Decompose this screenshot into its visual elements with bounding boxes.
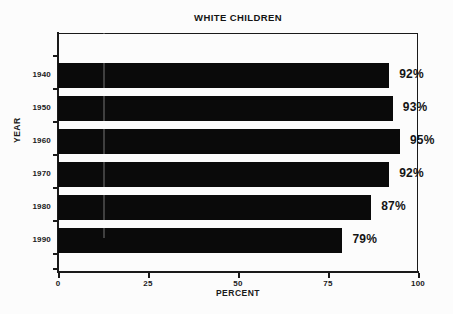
y-axis-tick-label: 1970 [32, 169, 51, 178]
y-axis-tick [53, 121, 58, 123]
bar-value-label: 79% [352, 232, 377, 246]
bar-row: 93% [58, 93, 418, 126]
x-axis-tick-label: 100 [411, 279, 425, 288]
y-axis-tick-label: 1990 [32, 235, 51, 244]
bar-row: 87% [58, 192, 418, 225]
x-axis-tick [148, 273, 150, 278]
bar-row: 92% [58, 159, 418, 192]
bar [58, 96, 393, 121]
x-axis-tick [418, 273, 420, 278]
x-axis-tick-label: 50 [233, 279, 242, 288]
bar-row: 95% [58, 126, 418, 159]
bar-value-label: 93% [403, 100, 428, 114]
y-axis-tick [53, 220, 58, 222]
bar-value-label: 87% [381, 199, 406, 213]
x-axis-tick [58, 273, 60, 278]
y-axis-tick [53, 268, 58, 270]
y-axis-tick [53, 88, 58, 90]
y-axis-title: YEAR [12, 117, 22, 143]
chart-page: WHITE CHILDREN 92%93%95%92%87%79% 194019… [0, 0, 453, 314]
x-axis-title: PERCENT [58, 288, 418, 298]
y-axis-tick [53, 154, 58, 156]
bar-row: 92% [58, 60, 418, 93]
y-axis-tick-label: 1950 [32, 103, 51, 112]
x-axis-tick-label: 75 [323, 279, 332, 288]
bar [58, 195, 371, 220]
bar-value-label: 92% [399, 166, 424, 180]
x-axis-tick-label: 25 [143, 279, 152, 288]
y-axis-tick [53, 253, 58, 255]
y-axis-tick-label: 1960 [32, 136, 51, 145]
y-axis-tick [53, 55, 58, 57]
bar-value-label: 92% [399, 67, 424, 81]
plot-area: 92%93%95%92%87%79% [58, 33, 418, 272]
bar [58, 228, 342, 253]
bar [58, 129, 400, 154]
x-axis-tick [238, 273, 240, 278]
y-axis-tick-label: 1980 [32, 202, 51, 211]
chart-title: WHITE CHILDREN [58, 12, 418, 23]
bar-value-label: 95% [410, 133, 435, 147]
x-axis-tick [328, 273, 330, 278]
y-axis-tick [53, 187, 58, 189]
bar [58, 63, 389, 88]
bar-row: 79% [58, 225, 418, 258]
y-axis-tick-label: 1940 [32, 70, 51, 79]
bar [58, 162, 389, 187]
x-axis-tick-label: 0 [56, 279, 61, 288]
